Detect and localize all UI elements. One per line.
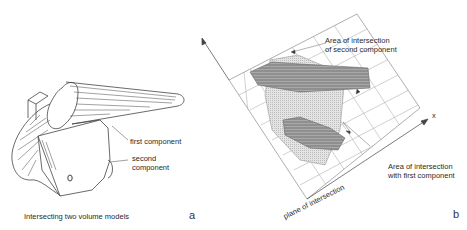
first-area-label-line1: Area of intersection bbox=[388, 162, 453, 171]
second-component-label-line2: component bbox=[132, 163, 169, 172]
second-area-label-line2: of second component bbox=[325, 45, 397, 54]
panel-a-caption: Intersecting two volume models bbox=[24, 212, 129, 221]
second-area-label-line1: Area of intersection bbox=[325, 36, 390, 45]
second-component-label-line1: second bbox=[132, 154, 156, 163]
first-area-label-line2: with first component bbox=[388, 171, 455, 180]
panel-a-volume-drawing bbox=[0, 0, 467, 230]
first-component-label: first component bbox=[130, 137, 181, 146]
x-axis-label: x bbox=[432, 111, 436, 120]
panel-a-tag: a bbox=[189, 209, 195, 221]
panel-b-tag: b bbox=[453, 208, 459, 220]
